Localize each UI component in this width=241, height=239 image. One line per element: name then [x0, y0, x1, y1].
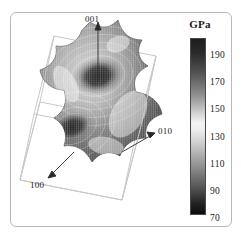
colorbar-tick-90: 90	[210, 186, 220, 196]
colorbar-gradient-svg	[191, 39, 205, 214]
colorbar-tick-110: 110	[210, 159, 225, 169]
axis-arrow-100-line	[52, 152, 74, 174]
surface-plot-svg	[10, 14, 180, 224]
colorbar-title: GPa	[180, 18, 220, 30]
axis-label-001: 001	[85, 14, 99, 24]
colorbar-tick-labels: 190 170 150 130 110 90 70	[210, 32, 236, 222]
colorbar-tick-70: 70	[210, 213, 220, 223]
colorbar-tick-170: 170	[210, 77, 225, 87]
colorbar-tick-190: 190	[210, 50, 225, 60]
surface-plot-area: 001 010 100	[10, 14, 180, 224]
axis-label-010: 010	[158, 126, 172, 136]
figure-root: 001 010 100 GPa	[0, 0, 241, 239]
colorbar-tick-130: 130	[210, 132, 225, 142]
colorbar-gradient	[190, 38, 206, 215]
colorbar-area: GPa	[180, 12, 236, 224]
axis-arrow-100-head	[48, 171, 56, 178]
colorbar-tick-150: 150	[210, 104, 225, 114]
axis-label-100: 100	[30, 180, 44, 190]
